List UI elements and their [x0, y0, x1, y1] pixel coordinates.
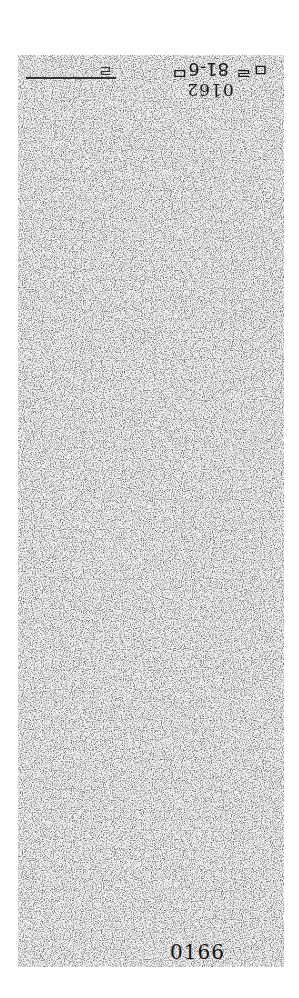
- handwritten-mark: ㄹ: [98, 58, 113, 82]
- page-number-bottom: 0166: [170, 940, 225, 964]
- noise-texture: [18, 55, 284, 967]
- page-number-top: 0162: [170, 80, 250, 100]
- scanned-noise-area: [18, 55, 284, 967]
